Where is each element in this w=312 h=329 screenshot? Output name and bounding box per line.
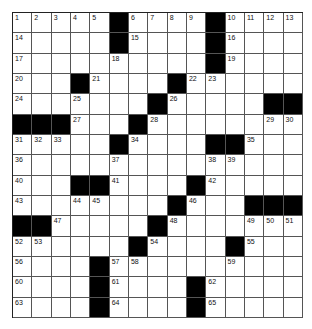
grid-cell[interactable] xyxy=(32,298,51,318)
grid-cell[interactable] xyxy=(110,237,129,257)
grid-cell[interactable] xyxy=(71,216,90,236)
grid-cell[interactable] xyxy=(284,33,303,53)
grid-cell[interactable] xyxy=(168,115,187,135)
grid-cell[interactable] xyxy=(284,277,303,297)
grid-cell[interactable] xyxy=(32,176,51,196)
grid-cell[interactable] xyxy=(168,155,187,175)
grid-cell[interactable]: 1 xyxy=(13,13,32,33)
grid-cell[interactable] xyxy=(226,74,245,94)
grid-cell[interactable] xyxy=(264,135,283,155)
grid-cell[interactable] xyxy=(52,257,71,277)
grid-cell[interactable]: 19 xyxy=(226,54,245,74)
grid-cell[interactable] xyxy=(129,277,148,297)
grid-cell[interactable] xyxy=(187,115,206,135)
grid-cell[interactable] xyxy=(148,277,167,297)
grid-cell[interactable]: 42 xyxy=(206,176,225,196)
grid-cell[interactable] xyxy=(52,94,71,114)
grid-cell[interactable] xyxy=(32,257,51,277)
grid-cell[interactable] xyxy=(226,196,245,216)
grid-cell[interactable]: 27 xyxy=(71,115,90,135)
grid-cell[interactable]: 10 xyxy=(226,13,245,33)
grid-cell[interactable] xyxy=(148,196,167,216)
grid-cell[interactable] xyxy=(206,257,225,277)
grid-cell[interactable]: 2 xyxy=(32,13,51,33)
grid-cell[interactable]: 47 xyxy=(52,216,71,236)
grid-cell[interactable] xyxy=(90,54,109,74)
grid-cell[interactable] xyxy=(148,135,167,155)
grid-cell[interactable]: 25 xyxy=(71,94,90,114)
grid-cell[interactable]: 62 xyxy=(206,277,225,297)
grid-cell[interactable] xyxy=(148,176,167,196)
grid-cell[interactable] xyxy=(52,277,71,297)
grid-cell[interactable] xyxy=(226,298,245,318)
grid-cell[interactable]: 16 xyxy=(226,33,245,53)
grid-cell[interactable]: 56 xyxy=(13,257,32,277)
grid-cell[interactable]: 17 xyxy=(13,54,32,74)
grid-cell[interactable]: 33 xyxy=(52,135,71,155)
grid-cell[interactable] xyxy=(187,237,206,257)
grid-cell[interactable]: 9 xyxy=(187,13,206,33)
grid-cell[interactable]: 11 xyxy=(245,13,264,33)
grid-cell[interactable] xyxy=(245,155,264,175)
grid-cell[interactable]: 53 xyxy=(32,237,51,257)
grid-cell[interactable]: 49 xyxy=(245,216,264,236)
grid-cell[interactable] xyxy=(129,155,148,175)
grid-cell[interactable] xyxy=(90,216,109,236)
grid-cell[interactable] xyxy=(32,54,51,74)
grid-cell[interactable]: 5 xyxy=(90,13,109,33)
grid-cell[interactable] xyxy=(264,74,283,94)
grid-cell[interactable]: 55 xyxy=(245,237,264,257)
grid-cell[interactable] xyxy=(284,298,303,318)
grid-cell[interactable] xyxy=(71,135,90,155)
grid-cell[interactable] xyxy=(32,277,51,297)
grid-cell[interactable] xyxy=(129,74,148,94)
grid-cell[interactable]: 7 xyxy=(148,13,167,33)
grid-cell[interactable]: 4 xyxy=(71,13,90,33)
grid-cell[interactable] xyxy=(90,94,109,114)
grid-cell[interactable] xyxy=(148,54,167,74)
grid-cell[interactable]: 37 xyxy=(110,155,129,175)
grid-cell[interactable] xyxy=(187,257,206,277)
grid-cell[interactable] xyxy=(284,135,303,155)
grid-cell[interactable]: 40 xyxy=(13,176,32,196)
grid-cell[interactable]: 61 xyxy=(110,277,129,297)
grid-cell[interactable] xyxy=(110,94,129,114)
grid-cell[interactable]: 14 xyxy=(13,33,32,53)
grid-cell[interactable] xyxy=(284,155,303,175)
grid-cell[interactable]: 31 xyxy=(13,135,32,155)
grid-cell[interactable] xyxy=(284,257,303,277)
grid-cell[interactable] xyxy=(90,237,109,257)
grid-cell[interactable] xyxy=(71,298,90,318)
grid-cell[interactable] xyxy=(71,257,90,277)
grid-cell[interactable] xyxy=(129,196,148,216)
grid-cell[interactable] xyxy=(284,237,303,257)
grid-cell[interactable] xyxy=(52,155,71,175)
grid-cell[interactable] xyxy=(245,94,264,114)
grid-cell[interactable] xyxy=(245,115,264,135)
grid-cell[interactable] xyxy=(284,176,303,196)
grid-cell[interactable]: 52 xyxy=(13,237,32,257)
grid-cell[interactable] xyxy=(284,74,303,94)
grid-cell[interactable] xyxy=(52,33,71,53)
grid-cell[interactable]: 65 xyxy=(206,298,225,318)
grid-cell[interactable]: 23 xyxy=(206,74,225,94)
grid-cell[interactable] xyxy=(226,176,245,196)
grid-cell[interactable] xyxy=(168,176,187,196)
grid-cell[interactable] xyxy=(264,298,283,318)
grid-cell[interactable]: 6 xyxy=(129,13,148,33)
grid-cell[interactable]: 46 xyxy=(187,196,206,216)
grid-cell[interactable] xyxy=(52,298,71,318)
grid-cell[interactable] xyxy=(187,94,206,114)
grid-cell[interactable]: 43 xyxy=(13,196,32,216)
grid-cell[interactable] xyxy=(168,237,187,257)
grid-cell[interactable] xyxy=(32,155,51,175)
grid-cell[interactable] xyxy=(168,277,187,297)
grid-cell[interactable]: 36 xyxy=(13,155,32,175)
grid-cell[interactable] xyxy=(187,135,206,155)
grid-cell[interactable] xyxy=(129,54,148,74)
grid-cell[interactable] xyxy=(264,257,283,277)
grid-cell[interactable] xyxy=(32,33,51,53)
grid-cell[interactable] xyxy=(148,33,167,53)
grid-cell[interactable] xyxy=(90,155,109,175)
grid-cell[interactable] xyxy=(226,277,245,297)
